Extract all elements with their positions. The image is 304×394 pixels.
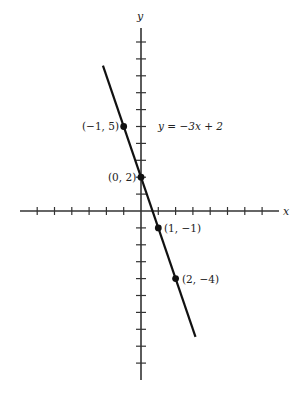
y-axis-label: y bbox=[136, 10, 144, 23]
data-point bbox=[155, 225, 162, 232]
x-axis-label: x bbox=[283, 205, 290, 218]
data-point bbox=[138, 174, 145, 181]
point-label-neg1-5: (−1, 5) bbox=[82, 120, 119, 132]
data-point bbox=[120, 123, 127, 130]
line-graph: y x y = −3x + 2 (−1, 5) (0, 2) (1, −1) (… bbox=[0, 0, 304, 394]
point-label-2-neg4: (2, −4) bbox=[182, 273, 219, 285]
point-label-1-neg1: (1, −1) bbox=[164, 222, 201, 234]
equation-label: y = −3x + 2 bbox=[157, 120, 223, 132]
function-line bbox=[103, 66, 196, 337]
data-point bbox=[172, 275, 179, 282]
point-label-0-2: (0, 2) bbox=[108, 171, 136, 183]
